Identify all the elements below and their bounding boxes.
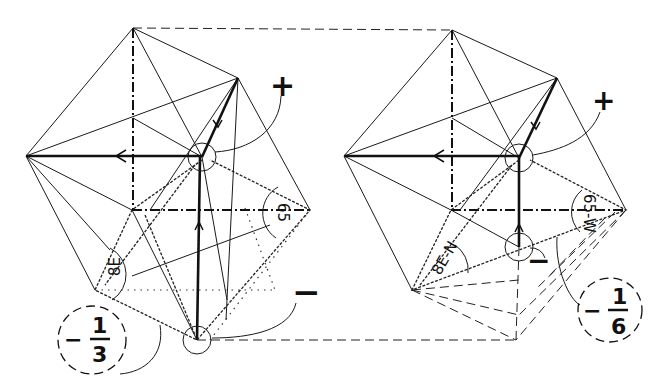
connector-lines	[133, 28, 516, 340]
left-fraction-sign: −	[64, 327, 82, 352]
right-fraction-denominator: 6	[611, 314, 626, 339]
left-polyhedron	[26, 28, 310, 374]
right-fraction-sign: −	[583, 298, 601, 323]
left-fraction-denominator: 3	[92, 342, 107, 367]
right-fraction-numerator: 1	[612, 284, 627, 309]
right-edge-label-2: 65-W	[580, 194, 598, 233]
left-fraction-numerator: 1	[92, 313, 107, 338]
diagram-canvas: + − 8E 65 − 1 3	[0, 0, 660, 385]
right-polyhedron	[344, 30, 642, 342]
right-plus-sign: +	[592, 84, 615, 117]
left-minus-sign: −	[292, 272, 321, 312]
left-edge-label-2: 65	[274, 203, 292, 222]
right-fraction: − 1 6	[583, 284, 628, 339]
left-plus-sign: +	[270, 68, 295, 103]
left-fraction: − 1 3	[64, 313, 110, 367]
right-minus-sign: −	[527, 244, 550, 277]
right-edge-label-1: 8E-N	[428, 238, 461, 278]
left-edge-label-1: 8E	[106, 257, 124, 276]
